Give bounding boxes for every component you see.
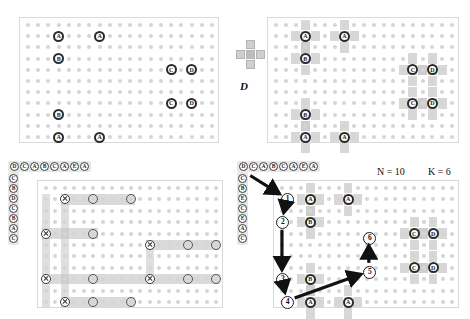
grid-dot [110, 277, 114, 281]
grid-dot [77, 45, 81, 49]
grid-dot [431, 289, 435, 293]
grid-dot [372, 113, 376, 117]
grid-dot [365, 186, 369, 190]
grid-dot [53, 220, 57, 224]
grid-dot [214, 254, 218, 258]
grid-dot [148, 186, 152, 190]
grid-dot [362, 124, 366, 128]
grid-dot [186, 254, 190, 258]
grid-dot [205, 209, 209, 213]
grid-dot [421, 135, 425, 139]
grid-dot [210, 90, 214, 94]
grid-dot [148, 254, 152, 258]
grid-dot [280, 243, 284, 247]
grid-dot [26, 45, 30, 49]
grid-dot [210, 79, 214, 83]
grid-dot [431, 186, 435, 190]
grid-dot [108, 68, 112, 72]
grid-dot [72, 266, 76, 270]
grid-dot [110, 220, 114, 224]
grid-dot [36, 101, 40, 105]
grid-dot [362, 113, 366, 117]
grid-dot [401, 90, 405, 94]
grid-dot [176, 289, 180, 293]
grid-dot [108, 113, 112, 117]
grid-dot [382, 113, 386, 117]
grid-dot [323, 135, 327, 139]
dilation-cell [301, 143, 310, 153]
grid-dot [87, 34, 91, 38]
grid-dot [337, 266, 341, 270]
grid-dot [289, 186, 293, 190]
grid-dot [384, 232, 388, 236]
grid-dot [327, 277, 331, 281]
cross-structuring-element [236, 40, 266, 70]
grid-dot [67, 124, 71, 128]
grid-dot [26, 23, 30, 27]
grid-dot [393, 232, 397, 236]
grid-dot [67, 113, 71, 117]
grid-dot [72, 232, 76, 236]
grid-dot [205, 243, 209, 247]
grid-dot [138, 101, 142, 105]
grid-dot [431, 209, 435, 213]
grid-dot [450, 289, 454, 293]
col-header-cell-2: A [259, 162, 268, 171]
grid-dot [210, 135, 214, 139]
grid-dot [374, 289, 378, 293]
grid-dot [280, 209, 284, 213]
grid-dot [87, 45, 91, 49]
grid-dot [450, 68, 454, 72]
grid-dot [403, 254, 407, 258]
grid-dot [129, 289, 133, 293]
labelled-point-c: C [166, 98, 177, 109]
grid-dot [313, 57, 317, 61]
grid-dot [362, 135, 366, 139]
grid-dot [118, 124, 122, 128]
grid-dot [169, 90, 173, 94]
grid-dot [195, 277, 199, 281]
grid-dot [63, 232, 67, 236]
grid-dot [167, 197, 171, 201]
col-header-cell-4: C [50, 162, 59, 171]
grid-dot [412, 300, 416, 304]
grid-dot [308, 232, 312, 236]
grid-dot [129, 209, 133, 213]
x-marker [41, 229, 51, 239]
grid-dot [44, 266, 48, 270]
grid-dot [440, 79, 444, 83]
grid-dot [67, 90, 71, 94]
grid-dot [205, 254, 209, 258]
grid-dot [210, 57, 214, 61]
col-header-cell-3: B [40, 162, 49, 171]
grid-dot [431, 220, 435, 224]
grid-dot [382, 135, 386, 139]
grid-dot [450, 277, 454, 281]
grid-dot [430, 135, 434, 139]
grid-dot [327, 220, 331, 224]
grid-dot [108, 124, 112, 128]
grid-dot [356, 266, 360, 270]
grid-dot [337, 197, 341, 201]
grid-dot [313, 34, 317, 38]
grid-dot [308, 289, 312, 293]
grid-dot [441, 220, 445, 224]
grid-dot [101, 300, 105, 304]
grid-dot [412, 277, 416, 281]
grid-dot [129, 232, 133, 236]
labelled-point-a: A [305, 297, 316, 308]
grid-dot [205, 300, 209, 304]
row-header-cell-3: C [238, 204, 247, 213]
grid-dot [214, 209, 218, 213]
grid-dot [72, 209, 76, 213]
grid-dot [411, 135, 415, 139]
grid-dot [169, 45, 173, 49]
grid-dot [176, 220, 180, 224]
grid-dot [91, 186, 95, 190]
grid-dot [313, 23, 317, 27]
grid-dot [441, 209, 445, 213]
grid-dot [303, 23, 307, 27]
grid-dot [26, 124, 30, 128]
grid-dot [210, 124, 214, 128]
grid-dot [210, 101, 214, 105]
